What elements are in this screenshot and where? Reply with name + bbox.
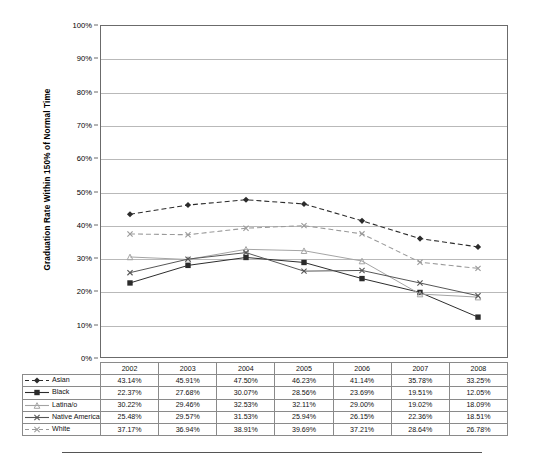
legend-swatch-triangle-icon — [24, 401, 50, 410]
series-line-black — [130, 257, 478, 317]
y-tick-mark — [94, 91, 98, 92]
data-point-square — [34, 390, 39, 395]
legend-label: Latina/o — [52, 401, 77, 410]
table-col-header-2003: 2003 — [159, 363, 217, 375]
table-col-header-2004: 2004 — [217, 363, 275, 375]
table-cell: 22.37% — [101, 387, 159, 399]
table-cell: 32.11% — [275, 399, 333, 411]
data-point-diamond — [301, 201, 307, 207]
series-line-latina-o — [130, 249, 478, 297]
y-tick-mark — [94, 124, 98, 125]
plot-area — [100, 25, 508, 358]
data-table: 2002200320042005200620072008 Asian43.14%… — [22, 362, 508, 436]
data-point-diamond — [185, 202, 191, 208]
data-point-diamond — [417, 235, 423, 241]
y-tick-mark — [94, 324, 98, 325]
chart-figure: Graduation Rate Within 150% of Normal Ti… — [0, 0, 541, 464]
table-cell: 27.68% — [159, 387, 217, 399]
y-tick-label: 60% — [77, 154, 92, 163]
y-tick-label: 90% — [77, 54, 92, 63]
legend-swatch-diamond-icon — [24, 376, 50, 385]
table-cell: 35.78% — [391, 375, 449, 387]
y-tick-label: 80% — [77, 87, 92, 96]
table-col-header-2007: 2007 — [391, 363, 449, 375]
data-point-square — [359, 276, 364, 281]
legend-swatch-x-icon — [24, 425, 50, 434]
series-lines — [101, 26, 507, 357]
legend-swatch-x-icon — [24, 413, 50, 422]
legend-label: Asian — [52, 376, 70, 385]
legend-item-black: Black — [23, 387, 101, 399]
y-tick-label: 100% — [73, 21, 92, 30]
table-cell: 47.50% — [217, 375, 275, 387]
legend-item-latina-o: Latina/o — [23, 399, 101, 411]
table-cell: 22.36% — [391, 411, 449, 423]
table-cell: 33.25% — [449, 375, 507, 387]
y-tick-label: 70% — [77, 120, 92, 129]
table-body: Asian43.14%45.91%47.50%46.23%41.14%35.78… — [23, 375, 508, 436]
table-cell: 39.69% — [275, 423, 333, 435]
table-cell: 46.23% — [275, 375, 333, 387]
table-cell: 29.57% — [159, 411, 217, 423]
y-tick-label: 50% — [77, 187, 92, 196]
table-cell: 18.09% — [449, 399, 507, 411]
table-row: Asian43.14%45.91%47.50%46.23%41.14%35.78… — [23, 375, 508, 387]
table-row: Black22.37%27.68%30.07%28.56%23.69%19.51… — [23, 387, 508, 399]
table-cell: 30.22% — [101, 399, 159, 411]
legend-label: White — [52, 425, 70, 434]
table-cell: 18.51% — [449, 411, 507, 423]
table-cell: 25.94% — [275, 411, 333, 423]
table-col-header-2006: 2006 — [333, 363, 391, 375]
data-point-square — [127, 280, 132, 285]
table-cell: 19.51% — [391, 387, 449, 399]
table-cell: 36.94% — [159, 423, 217, 435]
table-row: Latina/o30.22%29.46%32.53%32.11%29.00%19… — [23, 399, 508, 411]
footer-divider — [62, 452, 482, 453]
table-cell: 12.05% — [449, 387, 507, 399]
legend-swatch-square-icon — [24, 388, 50, 397]
y-axis-title: Graduation Rate Within 150% of Normal Ti… — [43, 55, 52, 305]
table-cell: 28.56% — [275, 387, 333, 399]
table-cell: 26.15% — [333, 411, 391, 423]
table-cell: 23.69% — [333, 387, 391, 399]
y-tick-label: 40% — [77, 220, 92, 229]
table-cell: 29.46% — [159, 399, 217, 411]
y-tick-label: 30% — [77, 254, 92, 263]
data-point-diamond — [359, 218, 365, 224]
table-cell: 31.53% — [217, 411, 275, 423]
y-tick-mark — [94, 191, 98, 192]
y-tick-mark — [94, 291, 98, 292]
legend-item-white: White — [23, 423, 101, 435]
table-col-header-2008: 2008 — [449, 363, 507, 375]
data-point-square — [243, 255, 248, 260]
legend-label: Native American — [52, 413, 101, 422]
y-tick-label: 10% — [77, 320, 92, 329]
table-col-header-2002: 2002 — [101, 363, 159, 375]
table-cell: 37.21% — [333, 423, 391, 435]
y-tick-label: 20% — [77, 287, 92, 296]
data-point-square — [301, 260, 306, 265]
table-row: Native American25.48%29.57%31.53%25.94%2… — [23, 411, 508, 423]
table-header-row: 2002200320042005200620072008 — [23, 363, 508, 375]
table-corner-cell — [23, 363, 101, 375]
table-cell: 30.07% — [217, 387, 275, 399]
table-cell: 28.64% — [391, 423, 449, 435]
y-tick-mark — [94, 224, 98, 225]
data-point-diamond — [34, 378, 40, 384]
legend-item-asian: Asian — [23, 375, 101, 387]
y-tick-mark — [94, 58, 98, 59]
data-point-square — [475, 314, 480, 319]
table-cell: 45.91% — [159, 375, 217, 387]
y-axis-ticks: 100%90%80%70%60%50%40%30%20%10%0% — [62, 25, 98, 358]
table-cell: 43.14% — [101, 375, 159, 387]
table-cell: 29.00% — [333, 399, 391, 411]
table-cell: 26.78% — [449, 423, 507, 435]
table-cell: 41.14% — [333, 375, 391, 387]
data-point-diamond — [475, 244, 481, 250]
legend-label: Black — [52, 388, 69, 397]
data-point-square — [185, 263, 190, 268]
data-point-diamond — [243, 197, 249, 203]
table-cell: 32.53% — [217, 399, 275, 411]
data-point-diamond — [127, 211, 133, 217]
y-tick-mark — [94, 25, 98, 26]
